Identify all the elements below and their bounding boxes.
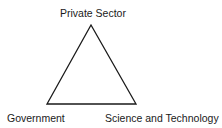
triangle-outline [47,25,136,104]
vertex-label-government: Government [7,112,65,124]
triangle-shape [0,0,222,128]
vertex-label-private-sector: Private Sector [60,7,126,19]
vertex-label-science-and-technology: Science and Technology [105,112,219,124]
